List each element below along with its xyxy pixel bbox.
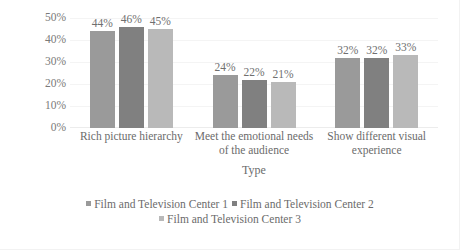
x-category-label: Rich picture hierarchy — [70, 130, 193, 164]
bar[interactable] — [271, 82, 296, 128]
legend-swatch-icon — [232, 201, 237, 206]
bar-slot: 46% — [119, 18, 144, 128]
bar-group: 44%46%45% — [70, 18, 193, 128]
bar-slot: 33% — [393, 18, 418, 128]
bar-slot: 22% — [242, 18, 267, 128]
bar-chart: Percentage 50% 40% 30% 20% 10% 0% 44%46%… — [0, 0, 460, 250]
bar-value-label: 46% — [121, 13, 142, 25]
bar[interactable] — [335, 58, 360, 128]
bar-slot: 32% — [335, 18, 360, 128]
bar-value-label: 44% — [92, 17, 113, 29]
legend-swatch-icon — [159, 216, 164, 221]
legend-item-series-3[interactable]: Film and Television Center 3 — [159, 213, 301, 225]
bar-groups: 44%46%45%24%22%21%32%32%33% — [70, 18, 438, 128]
bar-value-label: 21% — [272, 68, 293, 80]
y-tick-label: 10% — [22, 100, 66, 111]
legend-label: Film and Television Center 2 — [240, 198, 374, 210]
legend: Film and Television Center 1 Film and Te… — [0, 196, 460, 226]
bar-group-bars: 24%22%21% — [193, 18, 316, 128]
y-axis-tick-labels: 50% 40% 30% 20% 10% 0% — [22, 18, 66, 128]
bar-group-bars: 32%32%33% — [315, 18, 438, 128]
bar-value-label: 32% — [337, 44, 358, 56]
legend-label: Film and Television Center 3 — [167, 213, 301, 225]
bar-value-label: 45% — [150, 15, 171, 27]
x-category-label: Meet the emotional needsof the audience — [193, 130, 316, 164]
bar[interactable] — [119, 27, 144, 128]
x-category-label: Show different visualexperience — [315, 130, 438, 164]
bar-value-label: 22% — [243, 66, 264, 78]
bar-value-label: 24% — [214, 61, 235, 73]
y-tick-label: 50% — [22, 12, 66, 23]
bar-slot: 21% — [271, 18, 296, 128]
bar[interactable] — [393, 55, 418, 128]
bar-group: 32%32%33% — [315, 18, 438, 128]
bar-slot: 32% — [364, 18, 389, 128]
legend-swatch-icon — [86, 201, 91, 206]
bar[interactable] — [90, 31, 115, 128]
x-axis-title: Type — [70, 163, 438, 178]
bar-group: 24%22%21% — [193, 18, 316, 128]
x-axis-category-labels: Rich picture hierarchyMeet the emotional… — [70, 130, 438, 164]
y-tick-label: 0% — [22, 122, 66, 133]
bar[interactable] — [242, 80, 267, 128]
bar-value-label: 32% — [366, 44, 387, 56]
bar[interactable] — [213, 75, 238, 128]
legend-row: Film and Television Center 1 Film and Te… — [0, 196, 460, 211]
y-tick-label: 40% — [22, 34, 66, 45]
legend-row: Film and Television Center 3 — [0, 211, 460, 226]
bar-slot: 44% — [90, 18, 115, 128]
legend-item-series-1[interactable]: Film and Television Center 1 — [86, 198, 228, 210]
bar[interactable] — [148, 29, 173, 128]
y-tick-label: 30% — [22, 56, 66, 67]
bar-group-bars: 44%46%45% — [70, 18, 193, 128]
bar-slot: 45% — [148, 18, 173, 128]
y-tick-label: 20% — [22, 78, 66, 89]
plot-area: 44%46%45%24%22%21%32%32%33% — [70, 18, 438, 128]
legend-label: Film and Television Center 1 — [94, 198, 228, 210]
legend-item-series-2[interactable]: Film and Television Center 2 — [232, 198, 374, 210]
bar[interactable] — [364, 58, 389, 128]
bar-value-label: 33% — [395, 41, 416, 53]
bar-slot: 24% — [213, 18, 238, 128]
